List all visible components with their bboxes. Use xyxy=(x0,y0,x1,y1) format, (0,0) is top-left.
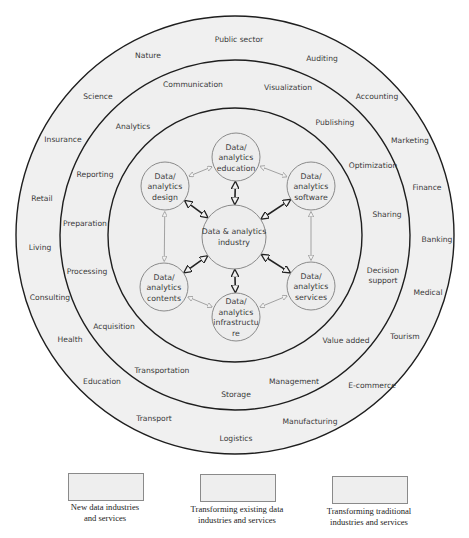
outer-label-medical: Medical xyxy=(413,288,442,297)
node-design-label-2: analytics xyxy=(148,182,183,191)
node-infrastructure-label-1: Data/ xyxy=(225,297,247,306)
outer-label-retail: Retail xyxy=(31,194,52,203)
middle-label-storage: Storage xyxy=(221,390,251,399)
node-education-label-2: analytics xyxy=(219,153,254,162)
outer-label-manufacturing: Manufacturing xyxy=(283,417,338,426)
data-industry-diagram: Data/analyticseducationData/analyticssof… xyxy=(0,0,469,538)
legend-label-new-data-line2: and services xyxy=(35,513,175,524)
link-center-infrastructure xyxy=(235,270,236,292)
middle-label-communication: Communication xyxy=(163,80,223,89)
outer-label-finance: Finance xyxy=(412,183,441,192)
legend-label-new-data-line1: New data industries xyxy=(35,502,175,513)
outer-label-education: Education xyxy=(83,377,121,386)
node-services-label-1: Data/ xyxy=(300,272,322,281)
middle-label-reporting: Reporting xyxy=(77,170,114,179)
center-node xyxy=(202,205,266,269)
outer-label-public-sector: Public sector xyxy=(215,35,264,44)
outer-label-health: Health xyxy=(58,335,83,344)
outer-label-insurance: Insurance xyxy=(44,135,82,144)
outer-label-consulting: Consulting xyxy=(30,293,71,302)
outer-label-accounting: Accounting xyxy=(356,92,399,101)
middle-label-optimization: Optimization xyxy=(349,161,398,170)
node-services-label-2: analytics xyxy=(294,282,329,291)
node-education-label-1: Data/ xyxy=(225,143,247,152)
outer-label-nature: Nature xyxy=(135,51,161,60)
node-software-label-2: analytics xyxy=(294,182,329,191)
node-software-label-3: software xyxy=(294,193,328,202)
outer-label-logistics: Logistics xyxy=(220,434,253,443)
legend-label-existing-data-line1: Transforming existing data xyxy=(167,504,307,515)
middle-label-publishing: Publishing xyxy=(316,118,355,127)
node-services-label-3: services xyxy=(295,293,327,302)
middle-label-transportation: Transportation xyxy=(134,366,190,375)
legend-label-new-data: New data industries and services xyxy=(35,502,175,524)
outer-label-marketing: Marketing xyxy=(391,136,429,145)
outer-label-transport: Transport xyxy=(135,414,172,423)
middle-label-value-added: Value added xyxy=(322,336,369,345)
node-design-label-3: design xyxy=(152,193,178,202)
middle-label-processing: Processing xyxy=(67,267,108,276)
legend-label-traditional: Transforming traditional industries and … xyxy=(299,506,439,528)
middle-label-preparation: Preparation xyxy=(63,219,107,228)
middle-label-management: Management xyxy=(269,377,319,386)
node-contents-label-2: analytics xyxy=(147,283,182,292)
node-infrastructure-label-2: analytics xyxy=(219,308,254,317)
node-infrastructure-label-4: re xyxy=(232,329,240,338)
legend-swatch-existing-data xyxy=(200,474,276,502)
legend-swatch-new-data xyxy=(68,473,144,501)
outer-label-tourism: Tourism xyxy=(389,332,419,341)
middle-label-sharing: Sharing xyxy=(372,210,401,219)
middle-label-support: support xyxy=(368,276,397,285)
outer-label-science: Science xyxy=(83,92,113,101)
link-center-education xyxy=(235,182,236,204)
legend-label-traditional-line1: Transforming traditional xyxy=(299,506,439,517)
node-contents-label-3: contents xyxy=(147,294,181,303)
outer-label-banking: Banking xyxy=(422,235,453,244)
middle-label-visualization: Visualization xyxy=(264,83,312,92)
middle-label-decision: Decision xyxy=(367,266,400,275)
outer-label-auditing: Auditing xyxy=(306,54,338,63)
middle-label-acquisition: Acquisition xyxy=(93,322,135,331)
center-node-label-2: industry xyxy=(218,238,250,247)
legend-label-traditional-line2: industries and services xyxy=(299,517,439,528)
node-contents-label-1: Data/ xyxy=(153,273,175,282)
node-education-label-3: education xyxy=(217,164,256,173)
node-design-label-1: Data/ xyxy=(154,172,176,181)
node-infrastructure-label-3: infrastructu xyxy=(213,318,258,327)
legend-label-existing-data: Transforming existing data industries an… xyxy=(167,504,307,526)
center-node-label-1: Data & analytics xyxy=(202,227,267,236)
outer-label-e-commerce: E-commerce xyxy=(348,381,396,390)
legend-swatch-traditional xyxy=(332,476,408,504)
node-software-label-1: Data/ xyxy=(300,172,322,181)
legend-label-existing-data-line2: industries and services xyxy=(167,515,307,526)
middle-label-analytics: Analytics xyxy=(116,122,151,131)
outer-label-living: Living xyxy=(29,243,52,252)
